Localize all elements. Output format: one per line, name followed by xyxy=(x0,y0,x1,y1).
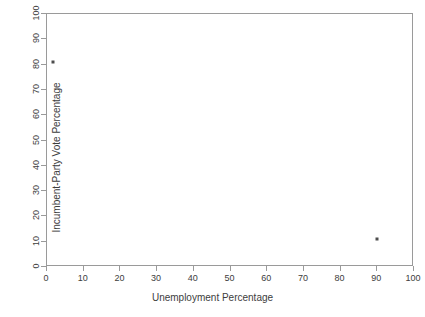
x-axis-tick-label: 40 xyxy=(188,273,198,284)
plot-data-area xyxy=(47,14,412,265)
y-axis-tick xyxy=(41,114,46,115)
y-axis-tick xyxy=(41,38,46,39)
x-axis-tick-label: 60 xyxy=(261,273,271,284)
y-axis-tick xyxy=(41,165,46,166)
y-axis-tick-label: 30 xyxy=(31,179,42,201)
y-axis-tick-label: 50 xyxy=(31,129,42,151)
x-axis-tick xyxy=(376,266,377,271)
x-axis-title: Unemployment Percentage xyxy=(0,292,425,303)
y-axis-tick xyxy=(41,13,46,14)
x-axis-tick-label: 50 xyxy=(224,273,234,284)
y-axis-tick-label: 0 xyxy=(31,255,42,277)
y-axis-tick-label: 10 xyxy=(31,230,42,252)
x-axis-tick-label: 10 xyxy=(78,273,88,284)
y-axis-tick-label: 100 xyxy=(31,2,42,24)
x-axis-tick-label: 30 xyxy=(151,273,161,284)
x-axis-tick-label: 90 xyxy=(371,273,381,284)
x-axis-tick xyxy=(193,266,194,271)
y-axis-tick xyxy=(41,266,46,267)
x-axis-tick-label: 70 xyxy=(298,273,308,284)
y-axis-tick-label: 90 xyxy=(31,27,42,49)
y-axis-tick xyxy=(41,64,46,65)
y-axis-tick-label: 70 xyxy=(31,78,42,100)
y-axis-title: Incumbent-Party Vote Percentage xyxy=(51,31,62,284)
x-axis-tick xyxy=(230,266,231,271)
y-axis-tick xyxy=(41,241,46,242)
y-axis-tick xyxy=(41,89,46,90)
x-axis-tick xyxy=(46,266,47,271)
x-axis-tick xyxy=(303,266,304,271)
y-axis-tick xyxy=(41,140,46,141)
y-axis-tick-label: 20 xyxy=(31,204,42,226)
y-axis-tick xyxy=(41,215,46,216)
x-axis-tick-label: 100 xyxy=(405,273,420,284)
scatter-plot-figure: 0102030405060708090100010203040506070809… xyxy=(0,0,425,317)
data-point xyxy=(376,238,379,241)
x-axis-tick xyxy=(266,266,267,271)
x-axis-tick-label: 0 xyxy=(43,273,48,284)
x-axis-tick xyxy=(83,266,84,271)
y-axis-title-wrap: Incumbent-Party Vote Percentage xyxy=(0,13,22,266)
x-axis-tick-label: 80 xyxy=(335,273,345,284)
y-axis-tick-label: 40 xyxy=(31,154,42,176)
x-axis-tick xyxy=(119,266,120,271)
x-axis-tick xyxy=(340,266,341,271)
x-axis-tick xyxy=(156,266,157,271)
y-axis-tick xyxy=(41,190,46,191)
x-axis-tick xyxy=(413,266,414,271)
y-axis-tick-label: 60 xyxy=(31,103,42,125)
y-axis-tick-label: 80 xyxy=(31,53,42,75)
x-axis-tick-label: 20 xyxy=(114,273,124,284)
plot-panel xyxy=(46,13,413,266)
